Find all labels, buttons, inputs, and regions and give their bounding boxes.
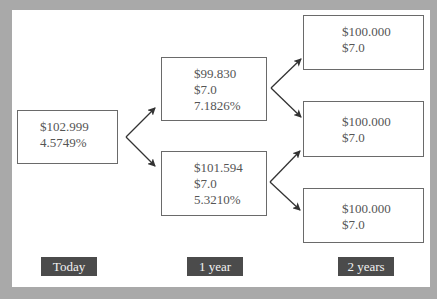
node-year1-down-rate: 5.3210% xyxy=(194,192,266,208)
node-year2-ud: $100.000 $7.0 xyxy=(303,101,424,157)
node-year1-down-price: $101.594 xyxy=(194,160,266,176)
node-year2-ud-coupon: $7.0 xyxy=(342,130,423,146)
node-today-rate: 4.5749% xyxy=(40,135,117,151)
node-year1-down-coupon: $7.0 xyxy=(194,176,266,192)
node-year1-up: $99.830 $7.0 7.1826% xyxy=(161,57,267,121)
time-label-year2: 2 years xyxy=(338,257,394,276)
node-year2-dd: $100.000 $7.0 xyxy=(303,188,424,243)
node-today-price: $102.999 xyxy=(40,119,117,135)
node-year1-up-rate: 7.1826% xyxy=(194,98,266,114)
node-year1-down: $101.594 $7.0 5.3210% xyxy=(161,151,267,216)
node-year2-uu-coupon: $7.0 xyxy=(342,40,423,56)
time-label-today: Today xyxy=(41,257,97,276)
node-today: $102.999 4.5749% xyxy=(17,110,118,164)
node-year1-up-coupon: $7.0 xyxy=(194,82,266,98)
node-year2-uu: $100.000 $7.0 xyxy=(303,15,424,70)
node-year2-dd-price: $100.000 xyxy=(342,201,423,217)
node-year2-uu-price: $100.000 xyxy=(342,24,423,40)
node-year1-up-price: $99.830 xyxy=(194,66,266,82)
time-label-year1: 1 year xyxy=(187,257,243,276)
node-year2-dd-coupon: $7.0 xyxy=(342,217,423,233)
node-year2-ud-price: $100.000 xyxy=(342,114,423,130)
